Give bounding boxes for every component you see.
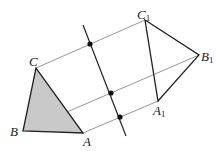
label-b1: B1 [201,49,213,65]
midpoint-dot [108,90,113,95]
midpoint-dot [87,41,92,46]
label-b: B [10,124,18,139]
midpoint-dot [117,114,122,119]
label-a: A [82,134,91,149]
label-c: C [29,54,38,69]
triangle-a1b1c1 [145,20,199,101]
label-a1: A1 [152,103,165,119]
label-c1: C1 [137,7,150,23]
triangle-abc [23,68,83,133]
diagram-canvas: C B A C1 B1 A1 [0,0,222,151]
reflection-diagram: C B A C1 B1 A1 [0,0,222,151]
